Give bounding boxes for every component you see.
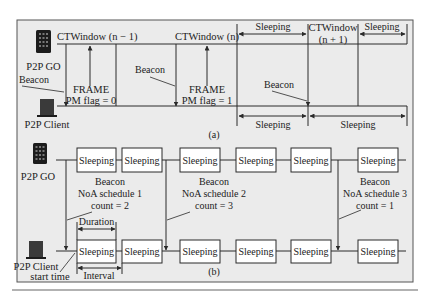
svg-text:Sleeping: Sleeping [294, 155, 329, 166]
svg-text:Beacon: Beacon [199, 176, 229, 187]
svg-text:Sleeping: Sleeping [239, 155, 274, 166]
svg-text:NoA schedule 3: NoA schedule 3 [343, 188, 407, 199]
svg-text:count = 1: count = 1 [356, 200, 394, 211]
svg-text:Sleeping: Sleeping [125, 155, 160, 166]
svg-text:Sleeping: Sleeping [361, 155, 396, 166]
go-label: P2P GO [26, 61, 61, 72]
go-sleeping-1: Sleeping [256, 21, 291, 32]
svg-text:Sleeping: Sleeping [239, 246, 274, 257]
p2p-power-save-diagram: P2P GO Beacon P2P Client CTWindow (n − 1… [0, 0, 428, 301]
frame-label-2: FRAME [189, 84, 225, 95]
go-label-b: P2P GO [21, 171, 56, 182]
client-sleeping-1: Sleeping [256, 119, 291, 130]
laptop-icon [37, 99, 57, 117]
svg-text:count = 2: count = 2 [91, 200, 129, 211]
svg-text:Sleeping: Sleeping [79, 246, 114, 257]
svg-text:PM flag = 0: PM flag = 0 [66, 95, 117, 106]
svg-text:NoA schedule 1: NoA schedule 1 [78, 188, 142, 199]
interval-label: Interval [83, 270, 114, 281]
svg-text:Sleeping: Sleeping [183, 246, 218, 257]
svg-text:Sleeping: Sleeping [361, 246, 396, 257]
client-sleeping-2: Sleeping [341, 119, 376, 130]
phone-icon [36, 30, 51, 53]
svg-text:Sleeping: Sleeping [294, 246, 329, 257]
svg-text:NoA schedule 2: NoA schedule 2 [182, 188, 246, 199]
ctwindow-n-minus-1: CTWindow (n − 1) [57, 31, 138, 43]
ctwindow-n: CTWindow (n) [175, 31, 240, 43]
svg-text:(n + 1): (n + 1) [319, 34, 348, 46]
client-label: P2P Client [25, 119, 70, 130]
svg-text:Sleeping: Sleeping [125, 246, 160, 257]
svg-text:start time: start time [30, 271, 70, 282]
beacon-label-right: Beacon [264, 79, 294, 90]
beacon-label-left: Beacon [19, 74, 49, 85]
laptop-icon [26, 241, 46, 259]
beacon-label-mid: Beacon [135, 64, 165, 75]
svg-text:PM flag = 1: PM flag = 1 [182, 95, 233, 106]
svg-text:Beacon: Beacon [95, 176, 125, 187]
svg-text:count = 3: count = 3 [195, 200, 233, 211]
svg-text:Beacon: Beacon [360, 176, 390, 187]
duration-label: Duration [79, 216, 115, 227]
frame-label-1: FRAME [73, 84, 109, 95]
svg-text:Sleeping: Sleeping [183, 155, 218, 166]
caption-a: (a) [208, 129, 219, 141]
phone-icon [33, 143, 47, 164]
ctwindow-n-plus-1: CTWindow [308, 22, 358, 33]
caption-b: (b) [208, 266, 220, 278]
svg-text:Sleeping: Sleeping [79, 155, 114, 166]
go-sleeping-2: Sleeping [365, 21, 400, 32]
